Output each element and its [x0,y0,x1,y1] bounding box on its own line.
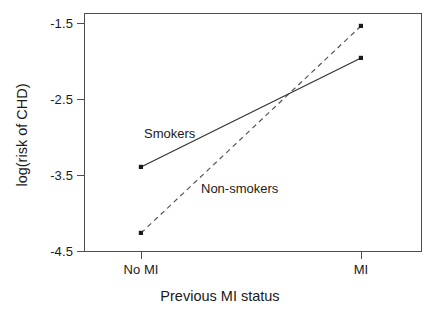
series-line-smokers [141,58,361,167]
x-axis-ticks [142,252,362,260]
data-point-smokers-mi [359,56,363,60]
series-annotation-non-smokers: Non-smokers [201,181,278,196]
plot-frame [85,14,422,252]
data-point-non-smokers-mi [359,24,363,28]
x-tick-label-mi: MI [316,262,406,277]
chart-container: -1.5 -2.5 -3.5 -4.5 No MI MI Previous MI… [0,0,440,316]
x-axis-title: Previous MI status [0,288,440,304]
series-annotation-smokers: Smokers [144,126,195,141]
data-point-non-smokers-no-mi [139,231,143,235]
data-point-smokers-no-mi [139,165,143,169]
y-tick-label-0: -1.5 [27,16,73,31]
y-axis-ticks [77,24,85,252]
x-tick-label-no-mi: No MI [96,262,186,277]
y-axis-title: log(risk of CHD) [14,35,30,235]
y-tick-label-2: -3.5 [27,168,73,183]
y-tick-label-1: -2.5 [27,92,73,107]
y-tick-label-3: -4.5 [27,244,73,259]
